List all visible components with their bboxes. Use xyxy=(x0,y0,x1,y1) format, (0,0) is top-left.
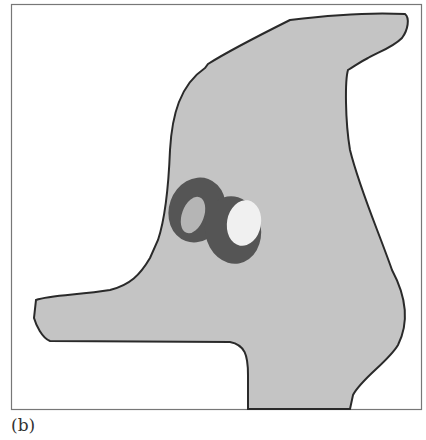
figure-caption: (b) xyxy=(11,415,35,435)
figure-diagram xyxy=(0,0,426,440)
